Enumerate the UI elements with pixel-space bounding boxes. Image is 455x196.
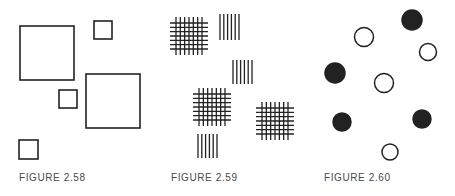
figure-canvas bbox=[0, 0, 455, 196]
filled-circle bbox=[413, 110, 431, 128]
filled-circle bbox=[402, 10, 422, 30]
square-small bbox=[19, 140, 38, 159]
figure-2-58-caption: FIGURE 2.58 bbox=[19, 172, 86, 183]
filled-circle bbox=[333, 113, 351, 131]
square-small bbox=[94, 21, 112, 39]
crosshatch-grid bbox=[170, 17, 208, 55]
figure-2-59-grids-and-lines bbox=[170, 14, 294, 158]
open-circle bbox=[420, 44, 437, 61]
filled-circle bbox=[325, 63, 345, 83]
figure-2-60-caption: FIGURE 2.60 bbox=[324, 172, 391, 183]
open-circle bbox=[382, 144, 398, 160]
square-small bbox=[59, 90, 77, 108]
figure-2-58-squares bbox=[19, 21, 140, 159]
square-large bbox=[20, 26, 74, 80]
figure-2-60-circles bbox=[325, 10, 437, 160]
crosshatch-grid bbox=[256, 102, 294, 140]
vertical-lines-group bbox=[233, 60, 252, 84]
vertical-lines-group bbox=[198, 134, 217, 158]
figure-2-59-caption: FIGURE 2.59 bbox=[171, 172, 238, 183]
open-circle bbox=[375, 74, 394, 93]
vertical-lines-group bbox=[220, 14, 239, 40]
crosshatch-grid bbox=[193, 88, 231, 126]
open-circle bbox=[355, 28, 374, 47]
square-large bbox=[86, 74, 140, 128]
